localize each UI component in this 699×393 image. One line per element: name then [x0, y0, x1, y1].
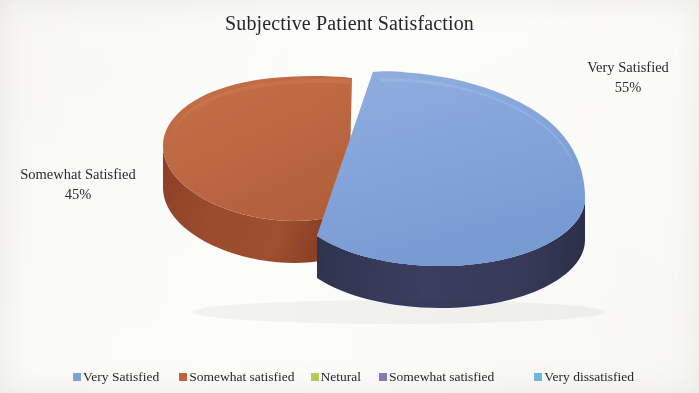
legend-label: Somewhat satisfied	[189, 369, 294, 385]
legend-item-very-dissatisfied[interactable]: Very dissatisfied	[534, 369, 634, 385]
legend-item-somewhat-satisfied[interactable]: Somewhat satisfied	[179, 369, 294, 385]
data-label-somewhat-satisfied-percent: 45%	[2, 184, 154, 204]
legend-item-somewhat-dissatisfied[interactable]: Somewhat satisfied	[379, 369, 494, 385]
legend-swatch-icon	[179, 373, 187, 381]
legend-item-netural[interactable]: Netural	[311, 369, 361, 385]
chart-page: Subjective Patient Satisfaction	[0, 0, 699, 393]
data-label-very-satisfied: Very Satisfied 55%	[562, 57, 694, 97]
legend-label: Netural	[321, 369, 361, 385]
legend-item-very-satisfied[interactable]: Very Satisfied	[73, 369, 159, 385]
data-label-somewhat-satisfied-name: Somewhat Satisfied	[20, 166, 136, 182]
chart-legend: Very Satisfied Somewhat satisfied Netura…	[0, 366, 699, 388]
legend-swatch-icon	[311, 373, 319, 381]
data-label-very-satisfied-name: Very Satisfied	[587, 59, 669, 75]
legend-swatch-icon	[73, 373, 81, 381]
data-label-very-satisfied-percent: 55%	[562, 77, 694, 97]
data-label-somewhat-satisfied: Somewhat Satisfied 45%	[2, 164, 154, 204]
pie-slice-very-satisfied[interactable]	[317, 71, 585, 308]
legend-label: Very Satisfied	[83, 369, 159, 385]
pie-chart-area: Very Satisfied 55% Somewhat Satisfied 45…	[0, 0, 699, 360]
legend-label: Very dissatisfied	[544, 369, 634, 385]
legend-swatch-icon	[534, 373, 542, 381]
legend-swatch-icon	[379, 373, 387, 381]
legend-label: Somewhat satisfied	[389, 369, 494, 385]
